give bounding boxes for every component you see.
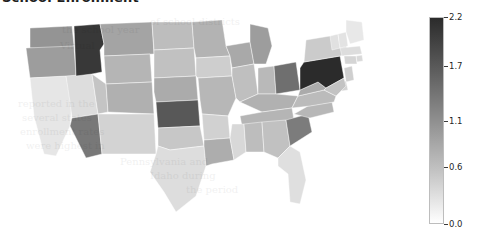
state-ar: AR: 0.42 [202,114,230,140]
page-title: School Enrollment [2,0,139,5]
state-ok: OK: 0.52 [158,126,204,150]
colorbar-tick-label: 0.6 [449,162,463,172]
state-ne: NE: 0.8 [154,76,198,102]
state-co: CO: 0.75 [106,82,154,114]
choropleth-figure: School Enrollment the school yearof scho… [0,0,481,246]
state-sc: SC: 1.3 [286,114,312,146]
state-wy: WY: 0.7 [104,54,152,84]
colorbar-tick-label: 2.2 [449,12,463,22]
state-fl: FL: 0.28 [278,146,306,204]
state-tx: TX: 0.3 [150,146,206,212]
colorbar-tick-label: 0.0 [449,219,463,229]
state-ks: KS: 1.7 [156,100,200,128]
state-in: IN: 0.66 [258,66,276,94]
colorbar-tick-label: 1.7 [449,61,463,71]
state-ct: CT: 0.38 [344,56,357,64]
colorbar-tick-mark [444,121,448,122]
states-group: WA: 1.05OR: 0.95CA: 0.22NV: 0.3ID: 2.05M… [26,20,364,212]
state-ma: MA: 0.3 [340,46,362,56]
colorbar-tick-label: 1.1 [449,116,463,126]
colorbar-tick-mark [444,224,448,225]
state-me: ME: 0.2 [346,20,364,44]
state-id: ID: 2.05 [74,24,104,76]
state-mi: MI: 0.95 [250,24,272,64]
state-nh: NH: 0.24 [338,32,348,48]
colorbar-gradient [429,17,444,224]
state-nd: ND: 0.62 [152,22,194,50]
state-mt: MT: 0.88 [100,22,154,56]
colorbar-tick-mark [444,66,448,67]
colorbar-tick-mark [444,167,448,168]
state-ia: IA: 0.45 [196,56,232,78]
state-oh: OH: 1.45 [274,62,300,94]
map-container: the school yearof school districtsVirtua… [0,6,400,246]
us-choropleth-map: WA: 1.05OR: 0.95CA: 0.22NV: 0.3ID: 2.05M… [0,6,400,246]
state-ca: CA: 0.22 [30,76,72,156]
colorbar-tick-mark [444,17,448,18]
state-sd: SD: 0.58 [154,48,196,78]
state-al: AL: 0.62 [244,122,264,152]
state-la: LA: 0.78 [204,138,234,166]
state-mo: MO: 0.68 [198,76,236,116]
state-ri: RI: 0.34 [356,55,363,62]
state-az: AZ: 1.35 [70,114,102,158]
state-nm: NM: 0.4 [98,114,156,154]
state-nj: NJ: 0.44 [344,66,354,82]
state-mn: MN: 0.72 [192,20,230,58]
colorbar: 2.21.71.10.60.0 % Virtual Enrollment [424,0,481,246]
state-or: OR: 0.95 [26,46,76,78]
